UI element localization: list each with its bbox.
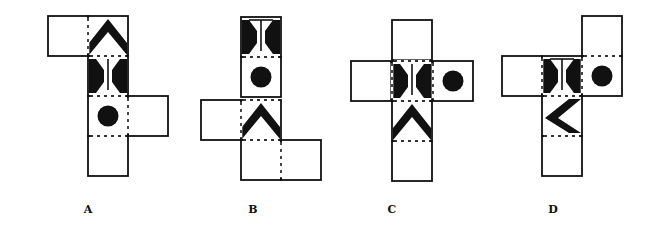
hourglass-right-icon [112,59,127,93]
hourglass-right-icon [416,64,431,98]
face-blank [88,136,128,176]
face-circle [241,57,281,97]
circle-icon [98,106,119,127]
face-circle [433,61,473,101]
hourglass-left-icon [543,59,558,93]
face-outline [128,96,168,136]
face-circle [88,96,128,136]
net-option-a [48,16,168,176]
net-option-b [201,17,321,180]
face-outline [88,136,128,176]
hourglass-left-icon [89,59,104,93]
chevron-icon [545,99,581,133]
face-outline [392,141,432,181]
face-hourglass [241,17,281,57]
hourglass-right-icon [265,20,280,54]
face-blank [128,96,168,136]
option-label-c: C [388,203,397,216]
face-outline [48,16,88,56]
circle-icon [592,66,613,87]
option-label-a: A [84,203,93,216]
face-outline [582,16,622,56]
hourglass-right-icon [566,59,581,93]
face-blank [48,16,88,56]
net-option-c [351,20,473,181]
chevron-icon [89,19,127,55]
face-hourglass [88,56,128,96]
hourglass-left-icon [242,20,257,54]
option-label-d: D [548,203,558,216]
cube-net-figure: A B C D [0,0,657,230]
face-blank [241,140,281,180]
face-blank [502,56,542,96]
net-option-d [502,16,622,176]
face-chevron [542,96,582,136]
cube-nets-canvas [0,0,657,230]
chevron-icon [393,104,431,140]
face-outline [351,61,391,101]
face-outline [502,56,542,96]
face-blank [582,16,622,56]
face-blank [201,100,241,140]
face-chevron [392,101,432,141]
face-outline [241,140,281,180]
face-blank [392,141,432,181]
face-outline [201,100,241,140]
face-hourglass [392,61,432,101]
face-outline [542,136,582,176]
face-blank [351,61,391,101]
hourglass-left-icon [393,64,408,98]
face-outline [281,140,321,180]
option-label-b: B [248,203,257,216]
face-circle [582,56,622,96]
face-hourglass [542,56,582,96]
chevron-icon [242,103,280,139]
face-blank [542,136,582,176]
face-blank [281,140,321,180]
circle-icon [251,67,272,88]
face-blank [392,20,432,60]
face-chevron [241,100,281,140]
circle-icon [443,71,464,92]
face-chevron [88,16,128,56]
face-outline [392,20,432,60]
